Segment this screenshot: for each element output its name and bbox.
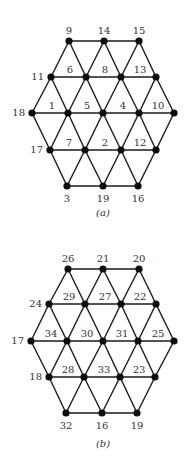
node-7 [81, 146, 88, 153]
node-31 [134, 337, 141, 344]
node-17 [46, 146, 53, 153]
node-label: 12 [134, 137, 147, 148]
edge [84, 377, 102, 413]
node-14 [100, 37, 107, 44]
node-18 [28, 109, 35, 116]
node-label: 24 [29, 298, 42, 309]
edge [138, 150, 156, 186]
node-12 [152, 146, 159, 153]
node-5 [99, 109, 106, 116]
edge [85, 113, 103, 150]
figure-a: 91415116813181541017721231916(a) [12, 25, 177, 218]
edge [121, 150, 138, 186]
node-20 [135, 265, 142, 272]
node-3 [63, 182, 70, 189]
node-1 [64, 109, 71, 116]
node-label: 17 [11, 335, 24, 346]
node-34 [63, 337, 70, 344]
node-label: 6 [67, 64, 73, 75]
node-label: 34 [45, 328, 58, 339]
edge [85, 150, 103, 186]
node-26 [64, 265, 71, 272]
node-label: 21 [97, 253, 110, 264]
node-label: 17 [30, 144, 43, 155]
node-13 [152, 73, 159, 80]
figure-caption: (b) [96, 438, 110, 449]
node-29 [81, 300, 88, 307]
node-label: 8 [102, 64, 108, 75]
edge [137, 377, 155, 413]
edge [49, 377, 66, 413]
node-label: 5 [84, 100, 90, 111]
node-21 [99, 265, 106, 272]
node-label: 3 [64, 193, 70, 204]
node-label: 13 [134, 64, 147, 75]
edge [155, 341, 174, 377]
figure-caption: (a) [96, 207, 110, 218]
node-label: 9 [66, 25, 72, 36]
node-label: 22 [134, 291, 147, 302]
node-label: 19 [131, 420, 144, 431]
node-4 [135, 109, 142, 116]
node-6 [82, 73, 89, 80]
node-label: 31 [116, 328, 129, 339]
node-label: 30 [81, 328, 94, 339]
edge [102, 377, 120, 413]
node-10 [170, 109, 177, 116]
node-32 [62, 409, 69, 416]
node-16 [134, 182, 141, 189]
node-label: 32 [60, 420, 73, 431]
node-label: 11 [31, 71, 44, 82]
node-2 [117, 146, 124, 153]
node-label: 29 [63, 291, 76, 302]
node-15 [135, 37, 142, 44]
node-label: 23 [133, 364, 146, 375]
node-label: 33 [98, 364, 111, 375]
node-22 [152, 300, 159, 307]
node-label: 19 [97, 193, 110, 204]
edge [156, 113, 174, 150]
node-24 [45, 300, 52, 307]
node-label: 1 [49, 100, 55, 111]
edge [103, 77, 121, 113]
edge [120, 377, 137, 413]
edge [50, 150, 67, 186]
node-label: 25 [152, 328, 165, 339]
edge [66, 377, 84, 413]
node-23 [151, 373, 158, 380]
hex-triangular-lattice-diagrams: 91415116813181541017721231916(a) 2621202… [0, 0, 191, 473]
node-19 [99, 182, 106, 189]
node-label: 10 [152, 100, 165, 111]
node-9 [65, 37, 72, 44]
node-label: 4 [120, 100, 126, 111]
node-label: 14 [98, 25, 111, 36]
node-18 [45, 373, 52, 380]
node-25 [170, 337, 177, 344]
node-label: 26 [62, 253, 75, 264]
node-17 [27, 337, 34, 344]
node-label: 16 [132, 193, 145, 204]
node-label: 20 [133, 253, 146, 264]
node-8 [117, 73, 124, 80]
node-27 [117, 300, 124, 307]
node-label: 18 [29, 371, 42, 382]
node-16 [98, 409, 105, 416]
node-11 [47, 73, 54, 80]
node-33 [116, 373, 123, 380]
node-19 [133, 409, 140, 416]
node-label: 18 [12, 107, 25, 118]
node-label: 27 [99, 291, 112, 302]
node-label: 7 [66, 137, 72, 148]
figure-b: 26212024292722173430312518283323321619(b… [11, 253, 177, 449]
node-label: 2 [102, 137, 108, 148]
edge [67, 150, 85, 186]
node-label: 15 [133, 25, 146, 36]
node-label: 16 [96, 420, 109, 431]
node-28 [80, 373, 87, 380]
node-30 [99, 337, 106, 344]
node-label: 28 [62, 364, 75, 375]
edge [103, 150, 121, 186]
